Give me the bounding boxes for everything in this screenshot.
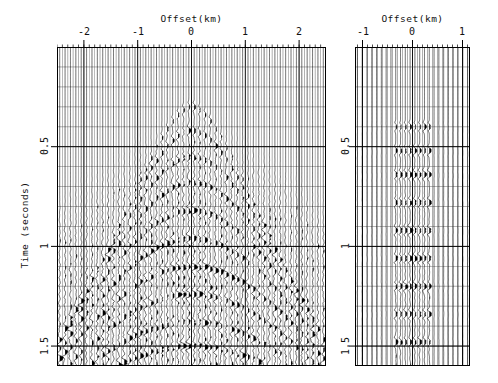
right-seismic-canvas [355,47,470,366]
right-x-axis-title: Offset(km) [355,13,470,24]
left-ytick-1p5: 1.5 [39,337,50,355]
left-xtick-2: 2 [296,26,302,37]
left-ytick-1: 1 [39,243,50,249]
seismic-figure: Offset(km) Time (seconds) -2 -1 0 1 2 0.… [0,0,498,383]
left-xtick-1: 1 [242,26,248,37]
left-ytick-0p5: 0.5 [39,137,50,155]
right-xtick-0: 0 [409,26,415,37]
right-plot-area [355,47,470,366]
left-axis-ticks [57,40,326,48]
right-y-axis-ticks [349,47,356,366]
left-seismic-canvas [57,47,326,366]
right-axis-ticks [355,40,470,48]
left-xtick-0: 0 [188,26,194,37]
left-y-axis-ticks [51,47,58,366]
left-xtick--2: -2 [78,26,90,37]
left-x-axis-title: Offset(km) [57,13,326,24]
left-y-axis-title: Time (seconds) [19,181,30,268]
right-xtick--1: -1 [357,26,369,37]
right-xtick-1: 1 [459,26,465,37]
left-xtick--1: -1 [132,26,144,37]
left-plot-area [57,47,326,366]
